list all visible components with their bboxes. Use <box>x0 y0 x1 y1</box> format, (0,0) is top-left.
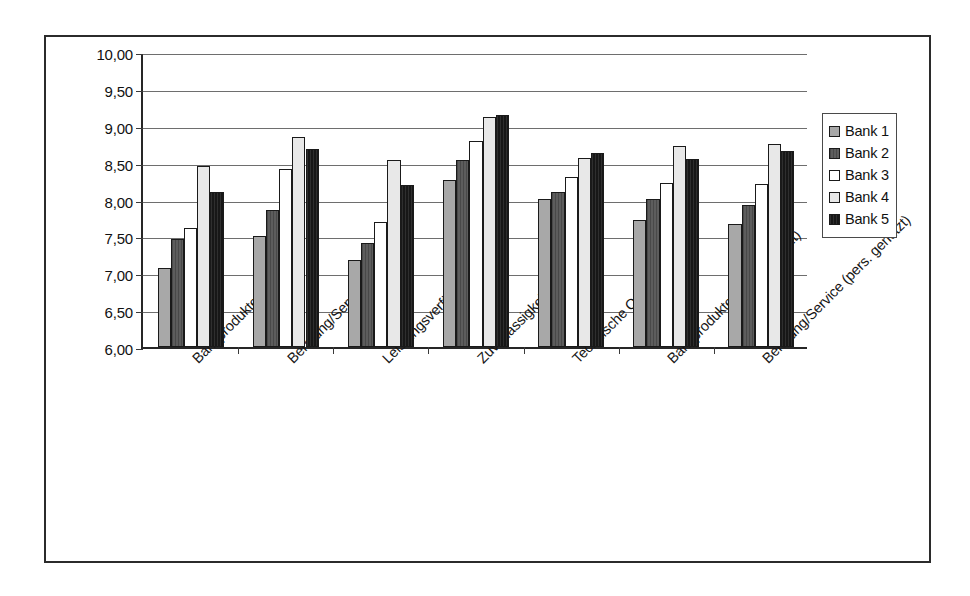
y-axis-tick-label: 8,50 <box>105 156 133 173</box>
y-axis-labels: 10,009,509,008,508,007,507,006,506,00 <box>46 54 141 349</box>
bar-bank-2 <box>361 243 374 347</box>
bar-bank-5 <box>401 185 414 347</box>
y-axis-tick-label: 10,00 <box>96 46 133 63</box>
y-axis-tick <box>136 275 143 276</box>
bar-bank-4 <box>197 166 210 347</box>
y-axis-tick <box>136 238 143 239</box>
y-axis-tick-label: 9,00 <box>105 119 133 136</box>
y-axis-tick <box>136 128 143 129</box>
bar-bank-2 <box>456 160 469 347</box>
bar-bank-1 <box>158 268 171 347</box>
legend-item-label: Bank 4 <box>845 189 889 205</box>
bar-bank-4 <box>387 160 400 347</box>
legend-item-label: Bank 1 <box>845 123 889 139</box>
bar-bank-2 <box>646 199 659 347</box>
bar-bank-5 <box>686 159 699 347</box>
bar-bank-5 <box>496 115 509 347</box>
chart-legend: Bank 1Bank 2Bank 3Bank 4Bank 5 <box>822 113 897 238</box>
bar-group <box>619 54 714 347</box>
bar-bank-3 <box>469 141 482 348</box>
bar-bank-2 <box>742 205 755 347</box>
y-axis-tick-label: 9,50 <box>105 82 133 99</box>
bar-bank-3 <box>184 228 197 347</box>
chart-frame: 10,009,509,008,508,007,507,006,506,00 Ba… <box>44 35 931 563</box>
legend-item-label: Bank 2 <box>845 145 889 161</box>
bar-bank-4 <box>673 146 686 347</box>
bar-bank-5 <box>306 149 319 347</box>
y-axis-tick <box>136 202 143 203</box>
bar-bank-2 <box>551 192 564 347</box>
legend-swatch-icon <box>829 126 840 137</box>
legend-swatch-icon <box>829 170 840 181</box>
bar-bank-5 <box>210 192 223 347</box>
y-axis-tick <box>136 165 143 166</box>
bar-bank-3 <box>755 184 768 347</box>
bar-bank-4 <box>292 137 305 347</box>
bar-bank-1 <box>348 260 361 347</box>
bar-bank-2 <box>171 239 184 347</box>
bar-bank-4 <box>483 117 496 347</box>
legend-item: Bank 1 <box>829 120 889 142</box>
bar-bank-3 <box>374 222 387 347</box>
legend-item: Bank 2 <box>829 142 889 164</box>
y-axis-tick <box>136 54 143 55</box>
bar-group <box>714 54 809 347</box>
y-axis-tick <box>136 91 143 92</box>
bar-bank-1 <box>633 220 646 347</box>
bar-bank-4 <box>768 144 781 347</box>
y-axis-tick-label: 6,00 <box>105 341 133 358</box>
legend-item-label: Bank 5 <box>845 211 889 227</box>
bar-bank-3 <box>565 177 578 347</box>
bar-bank-1 <box>538 199 551 347</box>
bar-bank-1 <box>443 180 456 347</box>
bar-bank-4 <box>578 158 591 347</box>
legend-swatch-icon <box>829 148 840 159</box>
y-axis-tick-label: 6,50 <box>105 304 133 321</box>
bar-bank-1 <box>728 224 741 347</box>
legend-item-label: Bank 3 <box>845 167 889 183</box>
bar-bank-3 <box>279 169 292 347</box>
bar-group <box>428 54 523 347</box>
bar-bank-2 <box>266 210 279 347</box>
bar-bank-5 <box>591 153 604 347</box>
y-axis-tick <box>136 312 143 313</box>
y-axis-tick-label: 8,00 <box>105 193 133 210</box>
legend-swatch-icon <box>829 192 840 203</box>
bar-group <box>143 54 238 347</box>
x-axis-labels: Bankprodukte (alle)Beratung/Service (all… <box>141 349 807 559</box>
bar-bank-1 <box>253 236 266 347</box>
legend-item: Bank 5 <box>829 208 889 230</box>
bar-group <box>238 54 333 347</box>
legend-swatch-icon <box>829 214 840 225</box>
bar-group <box>524 54 619 347</box>
legend-item: Bank 4 <box>829 186 889 208</box>
bar-bank-3 <box>660 183 673 347</box>
bar-group <box>333 54 428 347</box>
legend-item: Bank 3 <box>829 164 889 186</box>
y-axis-tick-label: 7,50 <box>105 230 133 247</box>
y-axis-tick-label: 7,00 <box>105 267 133 284</box>
bar-bank-5 <box>781 151 794 347</box>
